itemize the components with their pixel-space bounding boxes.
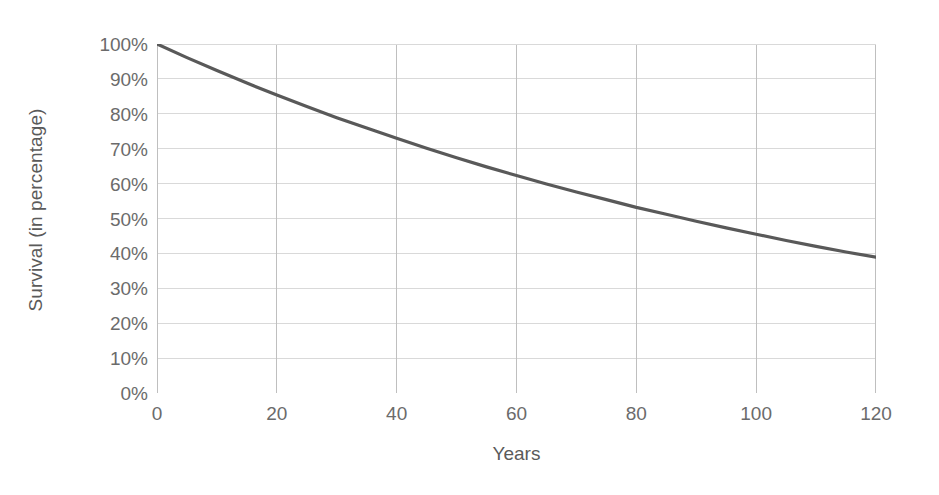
x-axis-tick-label: 120 [860, 404, 892, 423]
x-axis-title-text: Years [493, 443, 541, 464]
x-axis-title: Years [157, 443, 876, 465]
x-axis-tick-label: 0 [152, 404, 163, 423]
x-axis-tick-label: 60 [506, 404, 527, 423]
survival-curve-chart: Survival (in percentage) 0%10%20%30%40%5… [0, 0, 939, 495]
x-axis-tick-label: 40 [386, 404, 407, 423]
x-axis-tick-label: 100 [740, 404, 772, 423]
x-axis-tick-label: 80 [626, 404, 647, 423]
x-axis-tick-labels: 020406080100120 [0, 0, 939, 495]
x-axis-tick-label: 20 [266, 404, 287, 423]
